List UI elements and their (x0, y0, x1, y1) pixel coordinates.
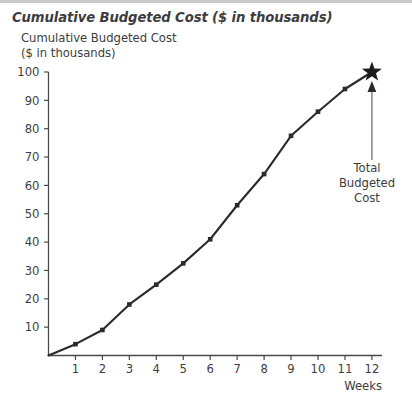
y-axis-tick-label: 90 (25, 94, 40, 108)
data-point-marker (181, 261, 186, 266)
y-axis-tick-label: 70 (25, 150, 40, 164)
x-axis-tick-label: 7 (233, 362, 240, 376)
y-axis-tick-label: 60 (25, 179, 40, 193)
data-point-marker (73, 342, 78, 347)
data-point-marker (127, 302, 132, 307)
x-axis-title: Weeks (344, 379, 382, 393)
line-chart: 102030405060708090100 123456789101112 To… (0, 0, 412, 406)
x-axis-tick-label: 9 (287, 362, 294, 376)
x-axis-tick-label: 6 (207, 362, 214, 376)
annotation-line1: Total (352, 161, 380, 175)
y-axis-tick-label: 30 (25, 264, 40, 278)
data-point-marker (208, 237, 213, 242)
data-point-marker (154, 282, 159, 287)
data-point-marker (100, 328, 105, 333)
y-axis-ticks: 102030405060708090100 (17, 65, 48, 334)
x-axis-ticks: 123456789101112 (72, 356, 380, 376)
data-series-line (49, 72, 372, 356)
x-axis-tick-label: 3 (126, 362, 133, 376)
x-axis-tick-label: 4 (153, 362, 160, 376)
data-point-marker (343, 87, 348, 92)
axis-lines (48, 72, 382, 356)
y-axis-tick-label: 20 (25, 292, 40, 306)
y-axis-tick-label: 80 (25, 122, 40, 136)
annotation-arrow-icon (368, 81, 377, 92)
x-axis-tick-label: 12 (365, 362, 380, 376)
annotation-line2: Budgeted (339, 176, 395, 190)
x-axis-tick-label: 5 (180, 362, 187, 376)
figure-container: Cumulative Budgeted Cost ($ in thousands… (0, 0, 412, 406)
y-axis-tick-label: 40 (25, 235, 40, 249)
annotation-line3: Cost (354, 191, 380, 205)
data-point-marker (316, 109, 321, 114)
y-axis-tick-label: 100 (17, 65, 39, 79)
x-axis-tick-label: 1 (72, 362, 79, 376)
data-point-marker (289, 133, 294, 138)
x-axis-tick-label: 10 (311, 362, 326, 376)
x-axis-tick-label: 2 (99, 362, 106, 376)
x-axis-tick-label: 11 (338, 362, 353, 376)
data-point-marker (235, 203, 240, 208)
y-axis-tick-label: 50 (25, 207, 40, 221)
data-point-markers (73, 87, 347, 347)
data-point-marker (262, 172, 267, 177)
y-axis-tick-label: 10 (25, 320, 40, 334)
annotation-leader (368, 81, 377, 160)
x-axis-tick-label: 8 (260, 362, 267, 376)
